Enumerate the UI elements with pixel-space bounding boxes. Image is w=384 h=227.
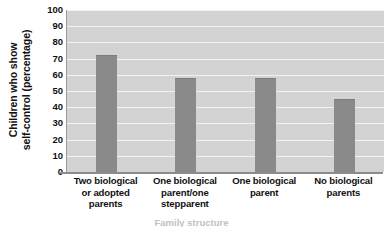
y-axis-tick: 30 bbox=[36, 118, 63, 128]
x-axis-category-label-line: or adopted bbox=[65, 187, 147, 199]
x-axis-category-label-line: No biological bbox=[302, 175, 384, 187]
x-axis-category-label-line: Two biological bbox=[65, 175, 147, 187]
gridline bbox=[67, 10, 384, 11]
y-axis-label: Children who show self-control (percenta… bbox=[0, 0, 40, 180]
y-axis-tick: 20 bbox=[36, 135, 63, 145]
x-axis-category-label-line: One biological bbox=[223, 175, 305, 187]
bar bbox=[255, 78, 276, 172]
y-axis-tick: 0 bbox=[36, 167, 63, 177]
y-axis-tick: 50 bbox=[36, 86, 63, 96]
y-axis-tick: 60 bbox=[36, 70, 63, 80]
x-axis-category-label-line: stepparent bbox=[144, 198, 226, 210]
x-axis-category-label: No biologicalparents bbox=[302, 175, 384, 198]
y-axis-tick-labels: 1009080706050403020100 bbox=[36, 10, 63, 172]
bar bbox=[96, 55, 117, 172]
y-axis-tick: 70 bbox=[36, 54, 63, 64]
y-axis-tick: 10 bbox=[36, 151, 63, 161]
x-axis-category-label-line: One biological bbox=[144, 175, 226, 187]
y-axis-label-line2: self-control (percentage) bbox=[20, 30, 33, 151]
x-axis-category-label-line: parent bbox=[223, 187, 305, 199]
bar bbox=[175, 78, 196, 172]
y-axis-tick: 100 bbox=[36, 5, 63, 15]
y-axis-tick: 80 bbox=[36, 37, 63, 47]
bar bbox=[334, 99, 355, 172]
x-axis-category-label-line: parents bbox=[65, 198, 147, 210]
y-axis-label-line1: Children who show bbox=[7, 43, 19, 138]
plot-area bbox=[66, 10, 384, 172]
gridline bbox=[67, 26, 384, 27]
x-axis-category-label-line: parent/one bbox=[144, 187, 226, 199]
x-axis-line bbox=[60, 172, 383, 174]
y-axis-tick: 90 bbox=[36, 21, 63, 31]
x-axis-category-label: One biologicalparent bbox=[223, 175, 305, 198]
gridline bbox=[67, 42, 384, 43]
x-axis-title: Family structure bbox=[0, 217, 383, 227]
x-axis-category-label: Two biologicalor adoptedparents bbox=[65, 175, 147, 210]
y-axis-tick: 40 bbox=[36, 102, 63, 112]
x-axis-category-labels: Two biologicalor adoptedparentsOne biolo… bbox=[60, 175, 383, 215]
x-axis-category-label: One biologicalparent/onestepparent bbox=[144, 175, 226, 210]
x-axis-category-label-line: parents bbox=[302, 187, 384, 199]
